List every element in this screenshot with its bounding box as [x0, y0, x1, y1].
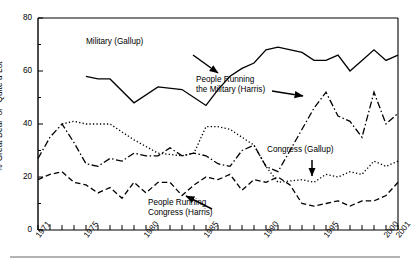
chart-plot-area [0, 0, 413, 265]
series-line-congress-gallup [62, 121, 398, 182]
data-series-group [38, 47, 398, 206]
axis-spines [38, 18, 398, 230]
arrow-people-running-military-harris [272, 91, 303, 96]
series-line-people-running-congress-harris [38, 172, 398, 206]
arrow-people-running-congress-harris [186, 196, 212, 209]
y-axis-ticks [38, 18, 43, 230]
series-line-military-gallup [86, 47, 398, 105]
annotation-arrows [186, 55, 312, 209]
x-axis-ticks [38, 225, 398, 230]
chart-figure: %"Great Deal" or "Quite a Lot" 80 60 40 … [0, 0, 413, 265]
series-line-people-running-military-harris [38, 92, 398, 172]
arrow-military-gallup [193, 55, 218, 73]
